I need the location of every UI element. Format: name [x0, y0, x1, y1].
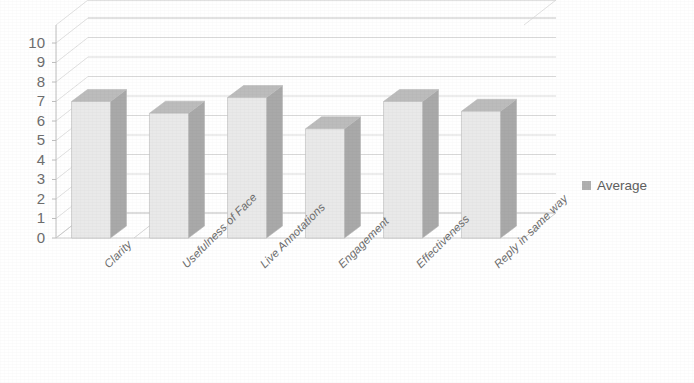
bar-2: [150, 101, 205, 238]
bar-side-face-4: [345, 117, 361, 238]
bar-front-face-2: [150, 113, 189, 238]
y-tick-label-10: 10: [28, 34, 45, 51]
bar-side-face-3: [267, 86, 283, 238]
y-tick-label-4: 4: [37, 151, 45, 168]
y-tick-label-5: 5: [37, 131, 45, 148]
y-tick-label-1: 1: [37, 209, 45, 226]
legend-swatch-average: [582, 181, 591, 190]
bar-side-face-1: [111, 90, 127, 239]
bar-1: [72, 90, 127, 239]
bar-side-face-2: [189, 101, 205, 238]
bar-6: [462, 99, 517, 238]
depth-edge-9: [56, 38, 88, 63]
bar-side-face-5: [423, 90, 439, 239]
y-tick-label-9: 9: [37, 53, 45, 70]
depth-edge-ceiling-right: [524, 0, 556, 25]
y-tick-label-2: 2: [37, 190, 45, 207]
y-tick-label-0: 0: [37, 229, 45, 246]
chart-legend: Average: [582, 178, 647, 193]
bar-front-face-1: [72, 102, 111, 239]
depth-edge-8: [56, 57, 88, 82]
legend-label-average: Average: [597, 178, 647, 193]
value-axis: [52, 25, 56, 238]
y-tick-label-6: 6: [37, 112, 45, 129]
y-axis-tick-labels: 109876543210: [28, 34, 45, 246]
chart-container: 109876543210 ClarityUsefulness of FaceLi…: [0, 0, 694, 383]
bar-series-average: [72, 86, 517, 238]
bar-front-face-5: [384, 102, 423, 239]
y-tick-label-8: 8: [37, 73, 45, 90]
bar-5: [384, 90, 439, 239]
y-tick-label-7: 7: [37, 92, 45, 109]
bar-side-face-6: [501, 99, 517, 238]
y-tick-label-3: 3: [37, 170, 45, 187]
